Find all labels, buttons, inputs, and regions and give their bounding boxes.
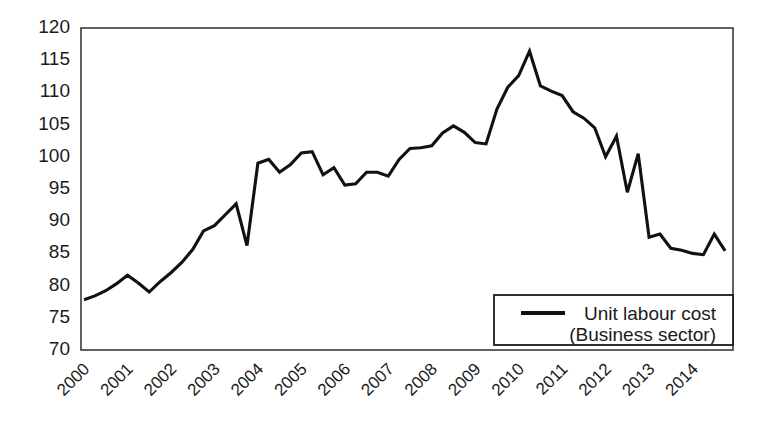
x-axis-tick-label: 2003 (184, 359, 224, 399)
y-axis-tick-label: 80 (49, 274, 70, 295)
legend-label-line2: (Business sector) (569, 324, 716, 345)
y-axis-tick-label: 95 (49, 177, 70, 198)
x-axis-tick-label: 2009 (444, 359, 484, 399)
y-axis-tick-label: 75 (49, 306, 70, 327)
x-axis-tick-label: 2000 (53, 359, 93, 399)
y-axis-tick-label: 115 (40, 48, 70, 69)
y-axis-tick-label: 120 (38, 16, 70, 37)
legend-label-line1: Unit labour cost (584, 303, 717, 324)
x-axis-tick-label: 2013 (618, 359, 658, 399)
x-axis-tick-label: 2012 (575, 359, 615, 399)
x-axis-tick-label: 2010 (488, 359, 528, 399)
x-axis-tick-label: 2011 (532, 359, 571, 398)
y-axis-tick-label: 110 (40, 80, 70, 101)
y-axis-tick-label: 90 (49, 209, 70, 230)
y-axis-tick-label: 100 (38, 145, 70, 166)
x-axis-tick-label: 2006 (314, 359, 354, 399)
x-axis-tick-label: 2014 (662, 359, 702, 399)
x-axis: 2000200120022003200420052006200720082009… (53, 359, 702, 399)
y-axis-tick-label: 105 (38, 113, 70, 134)
x-axis-tick-label: 2007 (357, 359, 397, 399)
x-axis-tick-label: 2002 (140, 359, 180, 399)
y-axis: 120115110105100959085807570 (38, 16, 70, 359)
y-axis-tick-label: 70 (49, 338, 70, 359)
x-axis-tick-label: 2004 (227, 359, 267, 399)
x-axis-tick-label: 2008 (401, 359, 441, 399)
chart-container: 120115110105100959085807570 200020012002… (0, 0, 775, 429)
x-axis-tick-label: 2001 (97, 359, 137, 399)
y-axis-tick-label: 85 (49, 241, 70, 262)
line-chart: 120115110105100959085807570 200020012002… (0, 0, 775, 429)
x-axis-tick-label: 2005 (271, 359, 311, 399)
chart-legend: Unit labour cost (Business sector) (494, 295, 733, 345)
